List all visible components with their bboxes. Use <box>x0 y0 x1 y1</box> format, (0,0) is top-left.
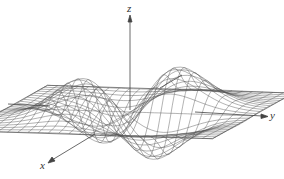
y-axis <box>195 112 262 116</box>
z-axis-arrowhead-icon <box>128 15 132 22</box>
x-axis-label: x <box>40 160 45 171</box>
surface-plot <box>0 0 284 179</box>
plane-outline <box>0 85 284 138</box>
y-axis-arrowhead-icon <box>261 114 268 119</box>
mesh-line <box>0 96 233 151</box>
x-axis <box>52 134 95 160</box>
y-axis-label: y <box>270 110 275 121</box>
surface-mesh <box>0 67 284 159</box>
z-axis-label: z <box>127 3 131 14</box>
x-axis-arrowhead-icon <box>48 157 55 163</box>
mesh-line <box>110 75 191 151</box>
mesh-line <box>0 87 236 157</box>
